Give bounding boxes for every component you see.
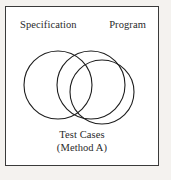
figure-frame: Specification Program Test Cases (Method… [5, 6, 159, 166]
specification-circle [24, 51, 92, 119]
caption-line-method: (Method A) [6, 141, 158, 154]
label-specification: Specification [20, 19, 77, 31]
figure-caption: Test Cases (Method A) [6, 128, 158, 154]
program-circle [57, 51, 125, 119]
figure-root: Specification Program Test Cases (Method… [0, 0, 171, 180]
caption-line-test-cases: Test Cases [6, 128, 158, 141]
label-program: Program [109, 19, 146, 31]
